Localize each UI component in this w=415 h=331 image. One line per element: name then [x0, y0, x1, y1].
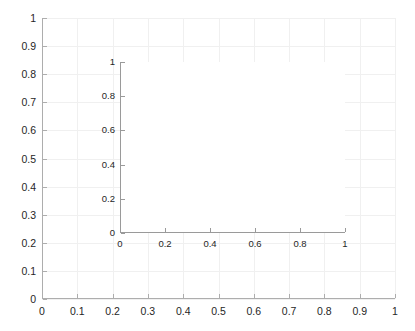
x-tick-label: 0.6	[248, 239, 261, 249]
x-tick-label: 1	[392, 306, 398, 317]
x-tick-label: 0.2	[158, 239, 171, 249]
y-tick-label: 0.6	[102, 126, 115, 136]
inset-plot-area[interactable]	[120, 62, 345, 233]
x-tick-label: 0.5	[211, 306, 226, 317]
y-tick-mark	[43, 299, 47, 300]
x-tick-label: 0.1	[70, 306, 85, 317]
y-tick-mark	[43, 159, 47, 160]
y-tick-mark	[43, 18, 47, 19]
x-tick-label: 1	[342, 239, 347, 249]
x-tick-mark	[289, 294, 290, 298]
y-tick-label: 0.3	[21, 209, 36, 220]
y-tick-mark	[43, 46, 47, 47]
inset-x-axis-line	[120, 232, 345, 233]
x-tick-mark	[395, 294, 396, 298]
x-tick-label: 0.3	[141, 306, 156, 317]
y-tick-label: 0.4	[21, 181, 36, 192]
y-tick-mark	[121, 165, 125, 166]
x-tick-mark	[113, 294, 114, 298]
y-tick-label: 1	[110, 57, 115, 67]
x-tick-label: 0	[117, 239, 122, 249]
y-tick-mark	[43, 215, 47, 216]
x-tick-label: 0.9	[352, 306, 367, 317]
y-tick-label: 0.2	[102, 194, 115, 204]
y-tick-label: 1	[30, 13, 36, 24]
x-tick-mark	[42, 294, 43, 298]
inset-axes[interactable]: 00.20.40.60.81 00.20.40.60.81	[120, 62, 345, 233]
y-tick-mark	[43, 74, 47, 75]
x-tick-mark	[300, 228, 301, 232]
y-tick-label: 0.1	[21, 266, 36, 277]
gridline-vertical	[360, 18, 361, 299]
y-tick-label: 0.9	[21, 41, 36, 52]
y-tick-mark	[43, 130, 47, 131]
y-tick-mark	[43, 102, 47, 103]
gridline-vertical	[395, 18, 396, 299]
y-tick-mark	[43, 187, 47, 188]
x-tick-mark	[77, 294, 78, 298]
inset-y-axis-line	[120, 62, 121, 233]
x-tick-label: 0.2	[105, 306, 120, 317]
x-tick-label: 0.8	[317, 306, 332, 317]
x-tick-label: 0	[39, 306, 45, 317]
y-tick-mark	[121, 199, 125, 200]
y-tick-mark	[121, 62, 125, 63]
gridline-horizontal	[42, 299, 395, 300]
y-tick-label: 0	[110, 228, 115, 238]
x-tick-mark	[254, 294, 255, 298]
x-tick-label: 0.7	[282, 306, 297, 317]
x-tick-mark	[345, 228, 346, 232]
y-tick-mark	[121, 96, 125, 97]
y-tick-label: 0.8	[21, 69, 36, 80]
x-tick-mark	[255, 228, 256, 232]
x-tick-mark	[360, 294, 361, 298]
x-tick-label: 0.4	[203, 239, 216, 249]
y-tick-label: 0.7	[21, 97, 36, 108]
x-tick-mark	[165, 228, 166, 232]
y-tick-mark	[43, 243, 47, 244]
x-tick-mark	[148, 294, 149, 298]
y-tick-mark	[121, 130, 125, 131]
y-tick-label: 0.5	[21, 153, 36, 164]
x-tick-mark	[210, 228, 211, 232]
y-tick-label: 0.8	[102, 91, 115, 101]
x-tick-mark	[324, 294, 325, 298]
x-tick-label: 0.8	[293, 239, 306, 249]
main-x-axis-line	[42, 298, 395, 299]
y-tick-label: 0.2	[21, 238, 36, 249]
y-tick-mark	[43, 271, 47, 272]
x-tick-mark	[120, 228, 121, 232]
gridline-vertical	[77, 18, 78, 299]
y-tick-label: 0.4	[102, 160, 115, 170]
x-tick-label: 0.6	[246, 306, 261, 317]
x-tick-mark	[183, 294, 184, 298]
x-tick-label: 0.4	[176, 306, 191, 317]
y-tick-label: 0.6	[21, 125, 36, 136]
x-tick-mark	[219, 294, 220, 298]
y-tick-label: 0	[30, 294, 36, 305]
figure-canvas: 00.10.20.30.40.50.60.70.80.91 00.10.20.3…	[0, 0, 415, 331]
y-tick-mark	[121, 233, 125, 234]
